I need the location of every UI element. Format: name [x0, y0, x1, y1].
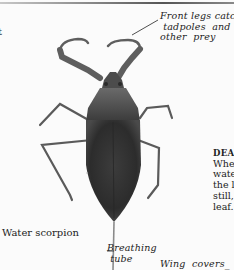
side-line: Whe — [213, 158, 234, 169]
right-hind-leg — [138, 140, 159, 198]
thorax — [86, 88, 140, 122]
side-column-heading: DEA — [213, 148, 234, 158]
side-line: wate — [213, 168, 234, 179]
left-middle-leg — [40, 104, 92, 125]
side-line: still, — [213, 190, 234, 201]
side-column-text: DEA Whe wate the l still, leaf. — [213, 148, 234, 212]
side-line: the l — [213, 179, 234, 190]
wing-covers-label: Wing covers_ — [160, 259, 230, 270]
side-line: leaf. — [213, 201, 234, 212]
water-scorpion-caption: Water scorpion — [2, 227, 79, 238]
breathing-tube-label: Breathing tube — [107, 243, 157, 264]
front-legs-label: Front legs catch tadpoles and other prey — [160, 11, 234, 43]
front-legs-leader-line — [132, 20, 158, 35]
book-page: t — [0, 0, 234, 270]
right-middle-leg — [140, 106, 172, 118]
left-front-leg — [60, 39, 100, 78]
left-hind-leg — [42, 140, 92, 200]
